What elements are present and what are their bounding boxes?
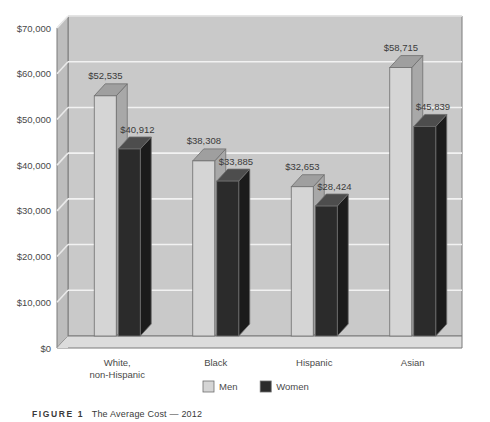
category-label-layer: White,non-HispanicBlackHispanicAsian	[90, 357, 425, 380]
y-axis-tick-label: $50,000	[17, 114, 51, 125]
legend-label: Women	[276, 381, 309, 392]
bar-women-3	[414, 114, 447, 336]
legend-swatch	[203, 381, 214, 392]
category-label: Black	[204, 357, 227, 368]
y-axis-tick-label: $20,000	[17, 251, 51, 262]
bar-women-1	[217, 169, 250, 336]
value-label-men: $58,715	[384, 42, 418, 53]
legend-label: Men	[219, 381, 237, 392]
y-axis-tick-label: $60,000	[17, 68, 51, 79]
value-label-women: $33,885	[219, 156, 253, 167]
category-label: non-Hispanic	[90, 369, 146, 380]
y-axis-tick-label: $70,000	[17, 23, 51, 34]
bar-women-0	[118, 137, 151, 336]
category-label: White,	[104, 357, 131, 368]
bar-women-2	[315, 194, 348, 336]
y-axis-tick-label: $30,000	[17, 205, 51, 216]
figure-caption: FIGURE 1 The Average Cost — 2012	[32, 409, 462, 422]
value-label-women: $28,424	[317, 181, 351, 192]
y-axis-tick-label: $0	[40, 343, 51, 354]
figure-container: $0$10,000$20,000$30,000$40,000$50,000$60…	[0, 0, 490, 422]
value-label-men: $52,535	[88, 70, 122, 81]
category-label: Hispanic	[296, 357, 333, 368]
plot-floor	[57, 336, 462, 348]
y-axis-tick-labels: $0$10,000$20,000$30,000$40,000$50,000$60…	[17, 23, 51, 354]
category-label: Asian	[401, 357, 425, 368]
value-label-men: $32,653	[285, 161, 319, 172]
plot-side-wall	[57, 16, 68, 348]
earnings-bar-chart: $0$10,000$20,000$30,000$40,000$50,000$60…	[0, 0, 490, 422]
value-label-women: $45,839	[416, 101, 450, 112]
chart-legend: MenWomen	[203, 381, 309, 392]
y-axis-tick-label: $10,000	[17, 297, 51, 308]
y-axis-tick-label: $40,000	[17, 160, 51, 171]
value-label-women: $40,912	[120, 124, 154, 135]
figure-number: FIGURE 1	[32, 409, 84, 419]
figure-caption-text: The Average Cost — 2012	[92, 409, 203, 419]
value-label-men: $38,308	[187, 135, 221, 146]
legend-swatch	[260, 381, 271, 392]
